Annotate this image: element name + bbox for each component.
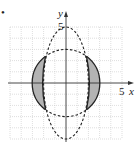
shaded-region <box>0 0 139 143</box>
x-axis-label: x <box>128 85 134 97</box>
polar-region-diagram: • y 5 5 x <box>0 0 139 143</box>
y-axis-label: y <box>57 7 63 19</box>
x-tick-label: 5 <box>119 85 125 97</box>
y-tick-label: 5 <box>58 20 64 32</box>
